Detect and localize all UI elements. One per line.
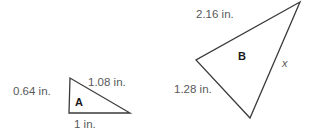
triangle-a-base-label: 1 in. <box>74 119 96 131</box>
triangle-a-left-side-label: 0.64 in. <box>13 86 51 98</box>
triangle-b-unknown-side-label: x <box>282 58 288 69</box>
triangle-a-name: A <box>75 97 83 108</box>
triangle-b-name: B <box>238 51 246 62</box>
triangle-b-left-side-label: 1.28 in. <box>174 84 212 96</box>
similar-triangles-figure: 0.64 in. 1.08 in. 1 in. A 2.16 in. 1.28 … <box>0 0 309 136</box>
triangle-a-hypotenuse-label: 1.08 in. <box>88 77 126 89</box>
triangle-b-top-side-label: 2.16 in. <box>196 9 234 21</box>
triangles-drawing <box>0 0 309 136</box>
